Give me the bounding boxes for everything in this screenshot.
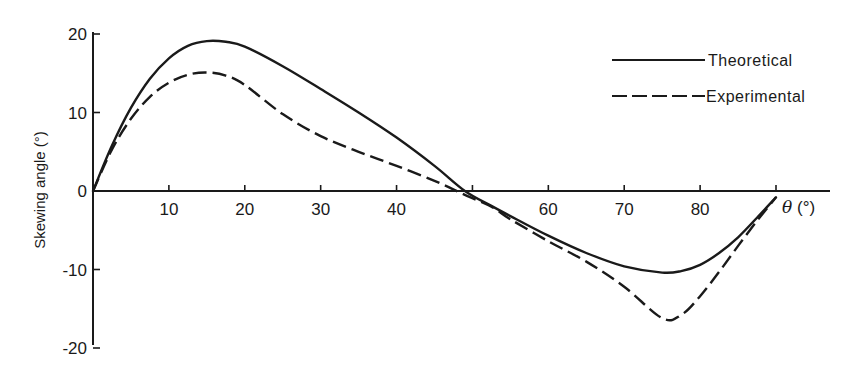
experimental-curve xyxy=(93,72,776,320)
y-tick-label: -10 xyxy=(62,261,87,280)
x-tick-label: 70 xyxy=(615,200,634,219)
y-tick-label: 0 xyxy=(78,182,87,201)
x-tick-label: 60 xyxy=(539,200,558,219)
theoretical-curve xyxy=(93,41,776,273)
theta-symbol: θ xyxy=(782,197,792,217)
legend-label-experimental: Experimental xyxy=(706,88,805,105)
axes: 10203040607080 -20-1001020 xyxy=(62,25,830,358)
x-tick-label: 30 xyxy=(311,200,330,219)
x-axis-unit: (°) xyxy=(792,198,815,217)
x-tick-label: 40 xyxy=(387,200,406,219)
legend-item-experimental: Experimental xyxy=(612,88,805,105)
x-tick-label: 20 xyxy=(235,200,254,219)
y-axis-title: Skewing angle (°) xyxy=(31,131,48,249)
x-axis-title: θ (°) xyxy=(782,197,815,217)
legend-item-theoretical: Theoretical xyxy=(612,52,793,69)
y-ticks: -20-1001020 xyxy=(62,25,100,358)
legend: Theoretical Experimental xyxy=(612,52,805,105)
y-tick-label: 10 xyxy=(68,104,87,123)
skewing-angle-chart: 10203040607080 -20-1001020 Skewing angle… xyxy=(0,0,850,371)
legend-label-theoretical: Theoretical xyxy=(708,52,793,69)
y-tick-label: 20 xyxy=(68,25,87,44)
y-tick-label: -20 xyxy=(62,339,87,358)
x-tick-label: 80 xyxy=(691,200,710,219)
x-tick-label: 10 xyxy=(159,200,178,219)
